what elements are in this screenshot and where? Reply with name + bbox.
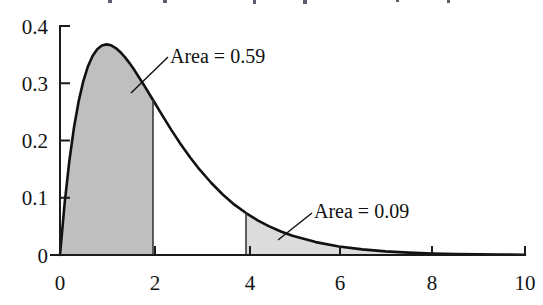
y-tick-label-4: 0 xyxy=(38,244,49,268)
annotation-area-left: Area = 0.59 xyxy=(170,45,265,67)
y-tick-label-2: 0.2 xyxy=(22,129,48,153)
x-tick-label-5: 10 xyxy=(515,271,536,295)
x-tick-label-1: 2 xyxy=(150,271,161,295)
x-tick-label-2: 4 xyxy=(245,271,256,295)
y-tick-label-0: 0.4 xyxy=(22,15,49,39)
y-tick-label-1: 0.3 xyxy=(22,72,48,96)
density-plot: 0.4 0.3 0.2 0.1 0 0 2 4 6 8 10 Area = 0.… xyxy=(0,0,543,305)
cropped-caption-specks xyxy=(108,0,450,4)
annotation-area-right: Area = 0.09 xyxy=(314,200,409,222)
figure-container: 0.4 0.3 0.2 0.1 0 0 2 4 6 8 10 Area = 0.… xyxy=(0,0,543,305)
y-tick-label-3: 0.1 xyxy=(22,186,48,210)
x-tick-label-3: 6 xyxy=(335,271,346,295)
x-tick-label-0: 0 xyxy=(55,271,66,295)
x-tick-label-4: 8 xyxy=(427,271,438,295)
